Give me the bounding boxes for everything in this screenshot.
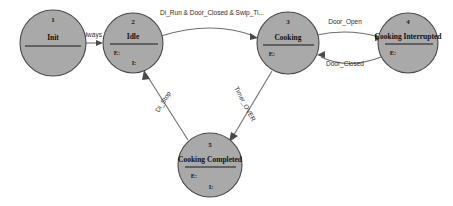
state-idle-number: 2 [131,18,135,26]
transition-di-run[interactable]: Di_Run & Door_Closed & Swip_Ti... [160,9,264,40]
state-cooking-interrupted[interactable]: 4 Cooking Interrupted E: [375,13,443,73]
state-idle[interactable]: 2 Idle E: I: [103,13,163,73]
state-cooking-completed[interactable]: 5 Cooking Completed E: I: [178,133,243,197]
transition-door-open-label: Door_Open [328,18,362,26]
state-cooking[interactable]: 3 Cooking E: [257,12,319,74]
state-cooking-entry: E: [269,50,276,57]
transition-door-closed-label: Door_Closed [326,60,364,68]
diagram-canvas: always Di_Run & Door_Closed & Swip_Ti...… [0,0,453,206]
state-cooking-completed-number: 5 [208,141,212,149]
transition-di-run-label: Di_Run & Door_Closed & Swip_Ti... [160,9,264,17]
transition-timer-over-line [232,71,272,138]
transition-di-run-line [161,28,254,36]
transition-door-open[interactable]: Door_Open [317,18,383,41]
state-cooking-interrupted-number: 4 [406,18,410,26]
transition-di-stop[interactable]: Di_Stop [142,70,188,140]
state-init-number: 1 [51,16,55,24]
state-idle-name: Idle [127,32,140,41]
transition-di-stop-label: Di_Stop [154,90,173,114]
state-cooking-interrupted-name: Cooking Interrupted [375,32,443,41]
state-machine-diagram: always Di_Run & Door_Closed & Swip_Ti...… [0,0,453,206]
state-cooking-completed-entry: E: [191,172,198,179]
transition-timer-over[interactable]: Timer_OVER [229,71,272,142]
transition-door-closed[interactable]: Door_Closed [317,51,381,68]
state-cooking-completed-internal: I: [209,183,214,190]
state-cooking-name: Cooking [274,33,301,42]
state-cooking-completed-name: Cooking Completed [178,155,243,164]
state-cooking-number: 3 [286,18,290,26]
state-cooking-interrupted-entry: E: [390,49,397,56]
state-idle-internal: I: [132,59,137,66]
transition-di-stop-line [146,74,188,140]
transition-always-arrowhead [96,40,103,46]
transition-door-open-line [317,32,379,37]
state-idle-entry: E: [114,49,121,56]
state-init-name: Init [47,33,59,42]
state-init[interactable]: 1 Init [20,10,86,76]
